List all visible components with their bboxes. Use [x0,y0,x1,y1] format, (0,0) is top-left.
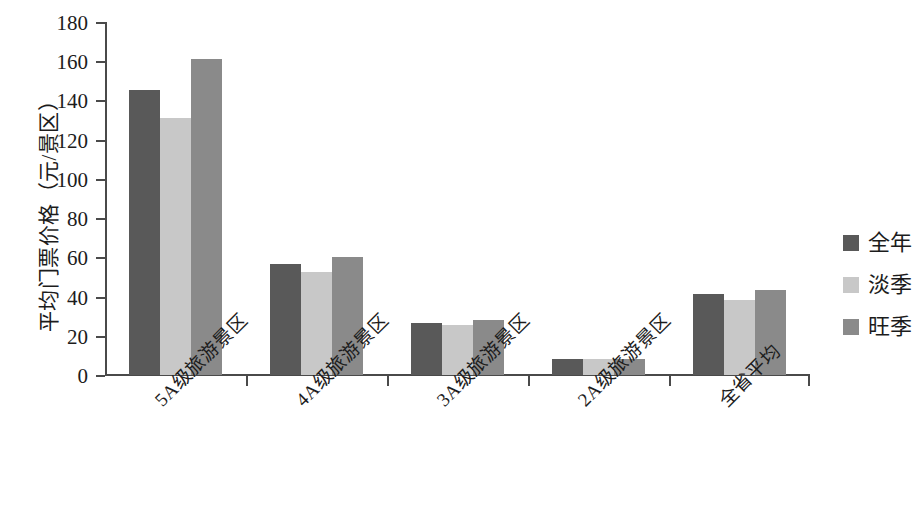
legend-label: 全年 [868,232,912,254]
bar [160,118,191,375]
legend: 全年淡季旺季 [843,222,912,348]
bar-chart: 平均门票价格（元/景区） 020406080100120140160180 5A… [0,0,924,530]
plot-area: 020406080100120140160180 [105,22,810,375]
y-axis-tick-label: 120 [57,130,89,151]
y-axis-tick-label: 180 [57,13,89,34]
y-axis-tick: 140 [96,100,105,102]
y-axis-tick-label: 20 [67,326,88,347]
x-axis-tick [246,375,248,386]
x-axis-tick [808,375,810,386]
legend-label: 淡季 [868,274,912,296]
legend-swatch-icon [843,235,859,251]
bar [693,294,724,375]
y-axis-tick-label: 60 [67,248,88,269]
bar [552,359,583,375]
legend-item: 旺季 [843,306,912,348]
y-axis-tick: 120 [96,140,105,142]
y-axis-tick: 160 [96,61,105,63]
y-axis-tick: 60 [96,257,105,259]
y-axis-tick: 20 [96,336,105,338]
y-axis-tick-label: 160 [57,52,89,73]
bar-group [669,22,810,375]
x-axis-tick [528,375,530,386]
legend-swatch-icon [843,319,859,335]
legend-item: 淡季 [843,264,912,306]
y-axis-tick-label: 0 [78,366,89,387]
y-axis-tick-label: 140 [57,91,89,112]
legend-label: 旺季 [868,316,912,338]
y-axis-tick-label: 80 [67,209,88,230]
bar [129,90,160,375]
y-axis-tick: 40 [96,297,105,299]
y-axis-tick: 0 [96,375,105,377]
y-axis-tick-label: 100 [57,169,89,190]
legend-swatch-icon [843,277,859,293]
bar [411,323,442,375]
y-axis-tick-label: 40 [67,287,88,308]
y-axis-tick: 80 [96,218,105,220]
bar [270,264,301,375]
x-axis-tick [669,375,671,386]
y-axis-tick: 100 [96,179,105,181]
x-axis-tick [387,375,389,386]
y-axis-tick: 180 [96,22,105,24]
legend-item: 全年 [843,222,912,264]
